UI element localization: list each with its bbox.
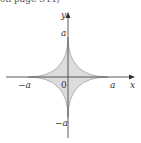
x-axis-arrow-icon [129,75,135,80]
y-axis-label: y [60,10,67,20]
astroid-diagram: y a x a −a 0 −a [0,0,141,143]
neg-a-x-label: −a [18,80,31,90]
x-axis-label: x [130,80,135,90]
pos-a-x-label: a [110,80,115,90]
pos-a-y-label: a [61,28,66,38]
origin-label: 0 [61,80,67,90]
neg-a-y-label: −a [55,118,68,128]
y-axis-arrow-icon [66,12,71,18]
